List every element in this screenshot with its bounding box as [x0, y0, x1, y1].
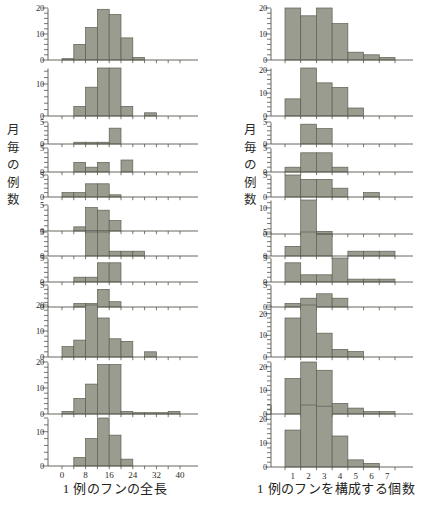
- histogram-bar: [301, 179, 317, 197]
- histogram-bar: [301, 124, 317, 144]
- histogram-bar: [364, 251, 380, 256]
- histogram-bar: [285, 318, 301, 357]
- histogram-bar: [316, 179, 332, 197]
- y-tick-label: 10: [237, 385, 267, 395]
- histogram-bar: [97, 263, 109, 282]
- histogram-bar: [86, 208, 98, 231]
- histogram-bar: [301, 68, 317, 116]
- y-tick-label: 10: [14, 79, 44, 89]
- histogram-bar: [285, 167, 301, 172]
- y-tick-label: 20: [237, 3, 267, 13]
- histogram-bar: [133, 251, 145, 256]
- y-tick-label: 0: [14, 55, 44, 65]
- histogram-bar: [316, 275, 332, 282]
- y-tick-label: 5: [14, 253, 44, 263]
- histogram-bar: [62, 347, 74, 357]
- histogram-bar: [86, 28, 98, 61]
- histogram-bar: [348, 352, 364, 357]
- histogram-bar: [109, 263, 121, 282]
- y-tick-label: 10: [237, 330, 267, 340]
- histogram-bar: [74, 398, 86, 414]
- y-tick-label: 10: [14, 383, 44, 393]
- histogram-bar: [97, 365, 109, 414]
- histogram-bar: [97, 9, 109, 60]
- histogram-bar: [332, 188, 348, 197]
- y-tick-label: 20: [14, 3, 44, 13]
- histogram-bar: [121, 38, 133, 60]
- right-x-axis-caption: 1 例のフンを構成する個数: [237, 478, 435, 497]
- histogram-bar: [348, 108, 364, 116]
- histogram-bar: [97, 418, 109, 466]
- y-tick-label: 5: [237, 117, 267, 127]
- y-tick-label: 10: [14, 29, 44, 39]
- histogram-bar: [109, 339, 121, 357]
- y-tick-label: 5: [14, 227, 44, 237]
- histogram-bar: [121, 251, 133, 256]
- histogram-bar: [145, 113, 157, 116]
- histogram-bar: [74, 277, 86, 282]
- panel-left-total-length: 月毎の例数 0102001005050505050505010200102001…: [0, 0, 218, 507]
- histogram-bar: [301, 275, 317, 282]
- histogram-bar: [332, 258, 348, 282]
- y-tick-label: 20: [237, 414, 267, 424]
- histogram-bar: [332, 87, 348, 116]
- y-tick-label: 5: [14, 280, 44, 290]
- histogram-bar: [301, 405, 317, 467]
- histogram-bar: [86, 87, 98, 116]
- histogram-bar: [348, 251, 364, 256]
- histogram-bar: [364, 463, 380, 467]
- histogram-bar: [316, 129, 332, 144]
- y-tick-label: 20: [14, 300, 44, 310]
- y-tick-label: 10: [237, 29, 267, 39]
- y-tick-label: 5: [14, 170, 44, 180]
- y-tick-label: 10: [14, 326, 44, 336]
- histogram-bar: [316, 83, 332, 116]
- histogram-bar: [121, 459, 133, 466]
- y-tick-label: 0: [237, 462, 267, 472]
- histogram-figure: 月毎の例数 0102001005050505050505010200102001…: [0, 0, 435, 507]
- y-tick-label: 0: [14, 461, 44, 471]
- histogram-bar: [364, 193, 380, 197]
- histogram-bar: [109, 128, 121, 144]
- histogram-bar: [97, 68, 109, 116]
- histogram-bar: [301, 16, 317, 60]
- chart-left-11: 0100816243240: [0, 418, 218, 480]
- histogram-bar: [285, 99, 301, 116]
- y-tick-label: 5: [237, 253, 267, 263]
- histogram-bar: [285, 246, 301, 256]
- y-tick-label: 0: [237, 352, 267, 362]
- chart-right-0: 01020: [217, 8, 435, 74]
- y-tick-label: 20: [237, 309, 267, 319]
- y-tick-label: 5: [237, 143, 267, 153]
- y-tick-label: 20: [237, 65, 267, 75]
- y-tick-label: 5: [237, 170, 267, 180]
- y-tick-label: 5: [14, 200, 44, 210]
- histogram-bar: [301, 305, 317, 357]
- histogram-bar: [332, 349, 348, 357]
- histogram-bar: [86, 384, 98, 414]
- histogram-bar: [316, 406, 332, 467]
- histogram-bar: [332, 436, 348, 467]
- histogram-bar: [97, 318, 109, 357]
- histogram-bar: [86, 305, 98, 357]
- histogram-bar: [121, 160, 133, 172]
- histogram-bar: [74, 106, 86, 116]
- y-tick-label: 10: [237, 88, 267, 98]
- y-tick-label: 5: [237, 280, 267, 290]
- histogram-bar: [145, 352, 157, 357]
- y-tick-label: 5: [14, 117, 44, 127]
- chart-right-11: 010201234567: [217, 405, 435, 481]
- y-tick-label: 20: [14, 357, 44, 367]
- panel-right-pellet-count: 月毎の例数 0102001020050505010050505010200102…: [217, 0, 435, 507]
- chart-left-0: 01020: [0, 8, 218, 74]
- histogram-bar: [109, 435, 121, 466]
- histogram-bar: [74, 457, 86, 466]
- histogram-bar: [74, 227, 86, 231]
- y-tick-label: 10: [14, 427, 44, 437]
- histogram-bar: [316, 333, 332, 357]
- histogram-bar: [285, 175, 301, 197]
- histogram-bar: [86, 232, 98, 256]
- y-tick-label: 20: [237, 362, 267, 372]
- histogram-bar: [74, 193, 86, 197]
- histogram-bar: [332, 24, 348, 60]
